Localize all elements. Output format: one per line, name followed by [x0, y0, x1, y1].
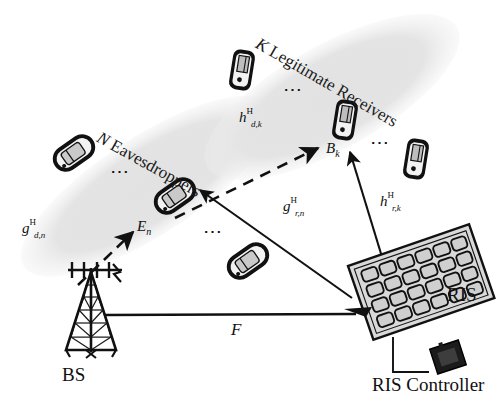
receiver-ellipsis-2: ⋯: [370, 131, 391, 154]
ris-label: RIS: [447, 284, 477, 306]
ris-controller-icon: [429, 337, 466, 374]
eavesdropper-node-label: En: [137, 218, 151, 237]
diagram-svg: [0, 0, 498, 415]
ris-controller-label: RIS Controller: [372, 374, 484, 396]
channel-label-g-r-n: gHr,n: [283, 197, 306, 217]
eve-ellipsis-2: ⋯: [203, 220, 224, 243]
base-station-label: BS: [62, 364, 85, 386]
link-ris-to-controller: [393, 337, 429, 372]
channel-label-F: F: [231, 320, 241, 340]
receiver-phone-3: [402, 138, 430, 181]
link-bs-to-ris: [104, 314, 356, 315]
receiver-node-label: Bk: [326, 140, 340, 159]
eve-phone-3: [222, 237, 275, 285]
link-ris-to-eavesdropper: [200, 190, 352, 298]
base-station-icon: [66, 262, 122, 358]
figure-canvas: N Eavesdroppers K Legitimate Receivers ⋯…: [0, 0, 498, 415]
receiver-phone-1: [228, 49, 256, 92]
eve-ellipsis-1: ⋯: [110, 160, 131, 183]
receiver-ellipsis-1: ⋯: [283, 78, 304, 101]
channel-label-h-d-k: hHd,k: [239, 108, 264, 128]
ris-panel-icon: [348, 224, 494, 339]
channel-label-g-d-n: gHd,n: [22, 219, 47, 239]
channel-label-h-r-k: hHr,k: [380, 192, 403, 212]
